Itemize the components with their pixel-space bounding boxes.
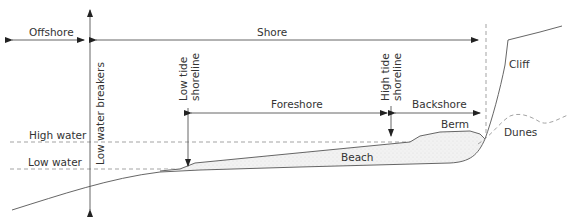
high-tide-shoreline-label-1: High tide — [379, 53, 391, 101]
low-tide-shoreline-label-2: shoreline — [189, 53, 201, 101]
low-tide-shoreline-label-1: Low tide — [177, 57, 189, 101]
high-water-label: High water — [29, 129, 87, 141]
backshore-label: Backshore — [412, 98, 467, 110]
low-water-label: Low water — [28, 156, 83, 168]
low-water-breakers-label: Low water breakers — [94, 62, 106, 165]
beach-label: Beach — [341, 151, 374, 163]
high-tide-shoreline-label-2: shoreline — [391, 53, 403, 101]
foreshore-label: Foreshore — [271, 98, 323, 110]
shore-label: Shore — [257, 26, 287, 38]
cliff-label: Cliff — [509, 58, 530, 70]
berm-label: Berm — [441, 118, 469, 130]
dunes-label: Dunes — [504, 126, 537, 138]
beach-profile-diagram: Offshore Shore Low water breakers Low ti… — [0, 0, 577, 221]
offshore-label: Offshore — [29, 26, 74, 38]
